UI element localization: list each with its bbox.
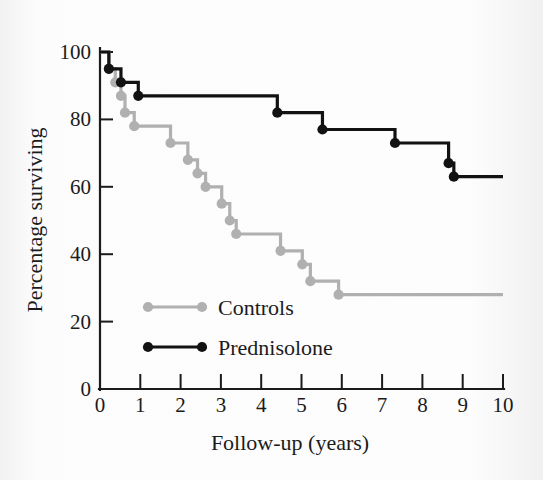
chart-page: 020406080100 012345678910 ControlsPredni… — [0, 0, 543, 480]
data-point-marker — [116, 77, 126, 87]
x-tick-label: 3 — [216, 393, 227, 417]
data-point-marker — [390, 138, 400, 148]
data-point-marker — [297, 259, 307, 269]
y-tick-label: 100 — [60, 40, 92, 64]
x-tick-label: 4 — [256, 393, 267, 417]
data-point-marker — [449, 172, 459, 182]
x-tick-label: 5 — [296, 393, 307, 417]
survival-chart: 020406080100 012345678910 ControlsPredni… — [0, 0, 543, 480]
data-point-marker — [129, 121, 139, 131]
series-layer — [100, 52, 503, 300]
series-controls — [100, 52, 503, 300]
data-point-marker — [192, 168, 202, 178]
x-tick-label: 1 — [135, 393, 146, 417]
data-point-marker — [217, 199, 227, 209]
x-axis-tick-labels: 012345678910 — [95, 393, 514, 417]
x-tick-label: 6 — [337, 393, 348, 417]
legend-item-prednisolone: Prednisolone — [143, 335, 333, 360]
data-point-marker — [133, 91, 143, 101]
series-line — [100, 52, 503, 295]
series-prednisolone — [100, 52, 503, 182]
y-tick-label: 0 — [81, 377, 92, 401]
data-point-marker — [225, 215, 235, 225]
legend-swatch-dot-left — [143, 342, 153, 352]
y-tick-label: 60 — [70, 175, 91, 199]
y-tick-label: 80 — [70, 107, 91, 131]
x-tick-label: 2 — [175, 393, 186, 417]
x-tick-label: 10 — [493, 393, 514, 417]
data-point-marker — [116, 91, 126, 101]
legend-swatch-dot-right — [197, 302, 207, 312]
y-axis-tick-labels: 020406080100 — [60, 40, 92, 401]
legend-swatch-dot-left — [143, 302, 153, 312]
legend-label: Prednisolone — [218, 335, 333, 360]
data-point-marker — [443, 158, 453, 168]
data-point-marker — [272, 108, 282, 118]
data-point-marker — [200, 182, 210, 192]
data-point-marker — [104, 64, 114, 74]
y-tick-label: 20 — [70, 310, 91, 334]
data-point-marker — [333, 290, 343, 300]
legend-item-controls: Controls — [143, 295, 294, 320]
legend-swatch-dot-right — [197, 342, 207, 352]
legend-label: Controls — [218, 295, 294, 320]
x-tick-label: 0 — [95, 393, 106, 417]
data-point-marker — [120, 108, 130, 118]
x-tick-label: 9 — [457, 393, 468, 417]
y-axis-title: Percentage surviving — [22, 127, 47, 312]
data-point-marker — [317, 124, 327, 134]
x-axis-title: Follow-up (years) — [211, 430, 369, 455]
chart-legend: ControlsPrednisolone — [143, 295, 333, 360]
x-axis-ticks — [140, 374, 503, 389]
x-tick-label: 7 — [377, 393, 388, 417]
data-point-marker — [183, 155, 193, 165]
y-axis-ticks — [100, 52, 113, 322]
data-point-marker — [165, 138, 175, 148]
data-point-marker — [231, 229, 241, 239]
x-tick-label: 8 — [417, 393, 428, 417]
data-point-marker — [305, 276, 315, 286]
data-point-marker — [275, 246, 285, 256]
y-tick-label: 40 — [70, 242, 91, 266]
series-line — [100, 52, 503, 177]
